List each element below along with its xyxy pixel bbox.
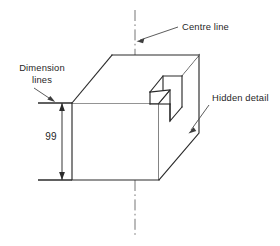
- centre-line-label: Centre line: [182, 21, 229, 32]
- leader-arrow-icon-dimension: [47, 96, 55, 102]
- hidden-detail-label: Hidden detail: [212, 92, 269, 103]
- leader-arrow-icon-centre: [137, 39, 145, 44]
- block-solid-edges: [72, 55, 199, 180]
- centre-line-callout: Centre line: [137, 21, 230, 43]
- dimension-lines-callout: Dimension lines: [19, 62, 65, 102]
- dimension-value-99: 99: [45, 131, 57, 142]
- dimension-99-group: 99: [38, 103, 72, 180]
- hidden-detail-callout: Hidden detail: [188, 92, 268, 134]
- dimension-lines-label-line2: lines: [32, 74, 52, 85]
- isometric-block-drawing: 99 Centre line Dimension lines Hidden de…: [0, 0, 280, 246]
- dimension-lines-label-line1: Dimension: [19, 62, 65, 73]
- arrow-up-icon: [59, 103, 65, 111]
- technical-drawing-figure: 99 Centre line Dimension lines Hidden de…: [0, 0, 280, 246]
- centre-line-leader: [140, 27, 178, 40]
- front-face-fill: [72, 103, 159, 180]
- arrow-down-icon: [59, 172, 65, 180]
